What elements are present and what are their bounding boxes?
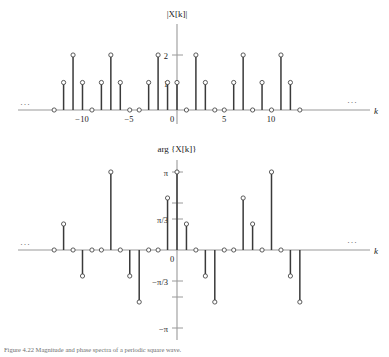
magnitude-plot: |X[k]| 2 1 −10 −5 0 5 10 ··· ···	[18, 9, 379, 124]
magnitude-data-point	[194, 53, 198, 57]
phase-data-point	[194, 248, 198, 252]
magnitude-x-tick-labels: −10 −5 0 5 10	[75, 114, 275, 124]
phase-data-point	[175, 170, 179, 174]
magnitude-data-point	[222, 108, 226, 112]
phase-k-label: k	[374, 246, 379, 256]
phase-left-ellipsis: ···	[20, 239, 31, 249]
x-tick-label-5: 5	[222, 114, 226, 124]
magnitude-left-ellipsis: ···	[20, 99, 31, 109]
magnitude-data-point	[109, 53, 113, 57]
phase-data-point	[241, 196, 245, 200]
magnitude-data-point	[175, 80, 179, 84]
phase-data-point	[71, 248, 75, 252]
figure-caption: Figure 4.22 Magnitude and phase spectra …	[4, 345, 385, 354]
x-tick-label-10: 10	[267, 114, 276, 124]
magnitude-data-point	[165, 80, 169, 84]
magnitude-data-point	[184, 108, 188, 112]
phase-data-point	[80, 274, 84, 278]
x-tick-label-0: 0	[170, 114, 174, 124]
y-tick-label-pi-third: π/3	[157, 215, 168, 225]
phase-data-point	[203, 274, 207, 278]
phase-data-point	[156, 248, 160, 252]
magnitude-right-ellipsis: ···	[347, 97, 358, 107]
y-tick-label-neg-pi-third: −π/3	[152, 277, 168, 287]
phase-data-point	[251, 222, 255, 226]
y-tick-label-zero: 0	[170, 254, 174, 264]
magnitude-data-point	[71, 53, 75, 57]
y-tick-label-pi: π	[164, 168, 169, 178]
phase-data-point	[147, 248, 151, 252]
magnitude-data-point	[298, 108, 302, 112]
phase-data-point	[213, 300, 217, 304]
figure-container: |X[k]| 2 1 −10 −5 0 5 10 ··· ···	[0, 0, 389, 357]
magnitude-data-point	[232, 80, 236, 84]
phase-data-point	[52, 248, 56, 252]
phase-data-point	[222, 248, 226, 252]
magnitude-data-point	[156, 53, 160, 57]
magnitude-data-point	[241, 53, 245, 57]
phase-data-point	[269, 170, 273, 174]
phase-data-point	[118, 248, 122, 252]
magnitude-axis-title: |X[k]|	[167, 9, 188, 19]
magnitude-data-point	[99, 80, 103, 84]
magnitude-data-point	[260, 80, 264, 84]
magnitude-data-point	[118, 80, 122, 84]
phase-data-point	[90, 248, 94, 252]
magnitude-data-point	[62, 80, 66, 84]
x-tick-label-neg10: −10	[75, 114, 88, 124]
magnitude-k-label: k	[374, 106, 379, 116]
magnitude-data-point	[80, 80, 84, 84]
phase-data-point	[288, 274, 292, 278]
y-tick-label-2: 2	[164, 51, 168, 61]
x-tick-label-neg5: −5	[124, 114, 133, 124]
phase-plot: arg {X[k]} π π/3 0 −π/3 −π	[18, 144, 379, 340]
phase-data-point	[184, 222, 188, 226]
magnitude-data-point	[147, 80, 151, 84]
magnitude-data-point	[137, 108, 141, 112]
phase-data-point	[99, 248, 103, 252]
phase-data-point	[137, 300, 141, 304]
y-tick-label-neg-pi: −π	[159, 324, 169, 334]
magnitude-data-point	[279, 53, 283, 57]
magnitude-data-point	[128, 108, 132, 112]
phase-data-point	[128, 274, 132, 278]
phase-data-point	[109, 170, 113, 174]
magnitude-data-point	[90, 108, 94, 112]
spectra-figure: |X[k]| 2 1 −10 −5 0 5 10 ··· ···	[0, 0, 389, 357]
phase-right-ellipsis: ···	[347, 237, 358, 247]
phase-data-point	[279, 248, 283, 252]
magnitude-data-point	[213, 108, 217, 112]
magnitude-data-point	[269, 108, 273, 112]
phase-data-point	[165, 196, 169, 200]
phase-axis-title: arg {X[k]}	[157, 144, 196, 154]
magnitude-data-point	[52, 108, 56, 112]
magnitude-data-point	[203, 80, 207, 84]
phase-data-point	[62, 222, 66, 226]
magnitude-data-point	[288, 80, 292, 84]
phase-data-point	[232, 248, 236, 252]
phase-data-point	[260, 248, 264, 252]
phase-data-point	[298, 300, 302, 304]
magnitude-data-point	[251, 108, 255, 112]
